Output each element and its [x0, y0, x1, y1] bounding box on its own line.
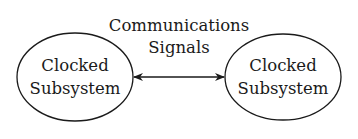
node-right-line2: Subsystem: [238, 79, 329, 98]
node-right-line1: Clocked: [249, 56, 317, 75]
edge-label-line2: Signals: [148, 38, 209, 57]
node-right: Clocked Subsystem: [225, 34, 341, 120]
node-left: Clocked Subsystem: [17, 33, 133, 121]
node-left-line2: Subsystem: [30, 79, 121, 98]
node-left-ellipse: [17, 33, 133, 121]
diagram-svg: Clocked Subsystem Clocked Subsystem Comm…: [0, 0, 358, 139]
edge-label-line1: Communications: [109, 16, 249, 35]
node-left-line1: Clocked: [41, 56, 109, 75]
diagram-canvas: Clocked Subsystem Clocked Subsystem Comm…: [0, 0, 358, 139]
node-right-ellipse: [225, 34, 341, 120]
